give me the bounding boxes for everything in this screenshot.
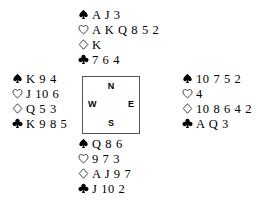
- hand-south-clubs-row: J 10 2: [78, 182, 131, 197]
- hand-north-hearts: A K Q 8 5 2: [92, 23, 159, 38]
- hand-east-hearts-row: 4: [182, 87, 252, 102]
- hand-east-clubs-row: A Q 3: [182, 117, 252, 132]
- diamond-icon: [182, 102, 196, 117]
- hand-west: K 9 4 J 10 6 Q 5 3 K 9 8 5: [12, 72, 67, 132]
- club-icon: [78, 53, 92, 68]
- hand-south-hearts-row: 9 7 3: [78, 152, 131, 167]
- hand-west-hearts-row: J 10 6: [12, 87, 67, 102]
- hand-east-spades-row: 10 7 5 2: [182, 72, 252, 87]
- heart-icon: [78, 23, 92, 38]
- hand-west-diamonds: Q 5 3: [26, 102, 57, 117]
- club-icon: [12, 117, 26, 132]
- heart-icon: [12, 87, 26, 102]
- heart-icon: [182, 87, 196, 102]
- hand-west-spades: K 9 4: [26, 72, 57, 87]
- hand-east-clubs: A Q 3: [196, 117, 229, 132]
- hand-north: A J 3 A K Q 8 5 2 K 7 6 4: [78, 8, 159, 68]
- hand-east: 10 7 5 2 4 10 8 6 4 2 A Q 3: [182, 72, 252, 132]
- spade-icon: [78, 8, 92, 23]
- hand-north-clubs: 7 6 4: [92, 53, 120, 68]
- hand-east-diamonds-row: 10 8 6 4 2: [182, 102, 252, 117]
- hand-south-hearts: 9 7 3: [92, 152, 120, 167]
- compass-label-north: N: [83, 82, 139, 91]
- compass-label-east: E: [128, 100, 134, 109]
- hand-north-hearts-row: A K Q 8 5 2: [78, 23, 159, 38]
- compass-label-south: S: [83, 119, 139, 128]
- heart-icon: [78, 152, 92, 167]
- hand-west-diamonds-row: Q 5 3: [12, 102, 67, 117]
- compass-box: N W E S: [82, 76, 140, 134]
- bridge-hand-diagram: A J 3 A K Q 8 5 2 K 7 6 4 K 9 4: [0, 0, 263, 211]
- hand-south-clubs: J 10 2: [92, 182, 125, 197]
- hand-north-diamonds-row: K: [78, 38, 159, 53]
- diamond-icon: [78, 38, 92, 53]
- hand-north-spades: A J 3: [92, 8, 121, 23]
- hand-west-spades-row: K 9 4: [12, 72, 67, 87]
- diamond-icon: [78, 167, 92, 182]
- spade-icon: [182, 72, 196, 87]
- hand-west-clubs: K 9 8 5: [26, 117, 67, 132]
- hand-south-spades-row: Q 8 6: [78, 137, 131, 152]
- compass-label-west: W: [88, 100, 97, 109]
- diamond-icon: [12, 102, 26, 117]
- hand-south: Q 8 6 9 7 3 A J 9 7 J 10 2: [78, 137, 131, 197]
- hand-south-spades: Q 8 6: [92, 137, 123, 152]
- hand-east-hearts: 4: [196, 87, 203, 102]
- hand-east-spades: 10 7 5 2: [196, 72, 241, 87]
- hand-north-clubs-row: 7 6 4: [78, 53, 159, 68]
- hand-east-diamonds: 10 8 6 4 2: [196, 102, 252, 117]
- hand-west-hearts: J 10 6: [26, 87, 59, 102]
- hand-south-diamonds: A J 9 7: [92, 167, 131, 182]
- hand-north-spades-row: A J 3: [78, 8, 159, 23]
- spade-icon: [78, 137, 92, 152]
- hand-west-clubs-row: K 9 8 5: [12, 117, 67, 132]
- club-icon: [182, 117, 196, 132]
- hand-south-diamonds-row: A J 9 7: [78, 167, 131, 182]
- club-icon: [78, 182, 92, 197]
- hand-north-diamonds: K: [92, 38, 102, 53]
- spade-icon: [12, 72, 26, 87]
